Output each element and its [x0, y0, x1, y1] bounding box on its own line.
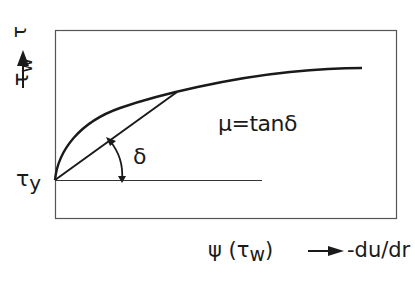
angle-arrowhead-bottom-icon: [118, 176, 126, 183]
x-axis-label-prefix: ψ (τ: [208, 238, 249, 262]
yield-stress-label: τy: [16, 166, 41, 191]
x-axis-label: ψ (τw): [208, 238, 273, 262]
y-axis-label-sub: w: [15, 58, 36, 73]
yield-stress-sub: y: [29, 171, 41, 195]
y-axis-top-label: τ: [7, 26, 31, 38]
y-axis-label-main: τ: [8, 73, 33, 86]
angle-arc: [110, 141, 122, 180]
right-arrow-icon: [328, 246, 344, 256]
secant-line: [55, 92, 177, 180]
x-axis-label-suffix: ): [265, 238, 273, 262]
x-axis-label-sub: w: [249, 243, 265, 265]
x-axis-target-label: -du/dr: [347, 238, 410, 262]
y-axis-label: τw: [8, 58, 33, 86]
yield-stress-main: τ: [16, 166, 29, 191]
angle-label: δ: [133, 144, 146, 169]
equation-label: μ=tanδ: [218, 111, 297, 136]
flow-curve: [55, 68, 362, 180]
